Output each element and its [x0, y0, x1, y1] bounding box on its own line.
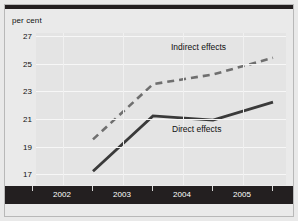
- x-tick-label: 2003: [102, 190, 142, 199]
- y-tick-label: 17: [2, 171, 32, 179]
- series-label-indirect: Indirect effects: [171, 42, 226, 52]
- gridline: [36, 147, 286, 148]
- gridline: [36, 174, 286, 175]
- x-tick-mark: [152, 186, 153, 191]
- vertical-gridline: [123, 33, 124, 185]
- series-label-direct: Direct effects: [172, 124, 221, 134]
- gridline: [36, 119, 286, 120]
- gridline: [36, 36, 286, 37]
- x-tick-mark: [272, 186, 273, 191]
- vertical-gridline: [183, 33, 184, 185]
- x-tick-label: 2002: [42, 190, 82, 199]
- x-tick-mark: [32, 186, 33, 191]
- x-tick-label: 2005: [222, 190, 262, 199]
- x-axis-band: 2002 2003 2004 2005: [5, 186, 293, 204]
- vertical-gridline: [243, 33, 244, 185]
- x-tick-mark: [92, 186, 93, 191]
- x-tick-label: 2004: [162, 190, 202, 199]
- plot-area: Indirect effects Direct effects: [36, 33, 286, 185]
- chart-figure: per cent 27 25 23 21 19 17 Indirect effe…: [0, 0, 298, 221]
- gridline: [36, 64, 286, 65]
- y-axis-tick-labels: 27 25 23 21 19 17: [0, 33, 32, 185]
- y-tick-label: 27: [2, 33, 32, 41]
- x-tick-mark: [212, 186, 213, 191]
- gridline: [36, 91, 286, 92]
- y-tick-label: 19: [2, 144, 32, 152]
- series-plot: [36, 33, 286, 185]
- top-rule-divider: [5, 5, 293, 9]
- vertical-gridline: [63, 33, 64, 185]
- y-axis-title: per cent: [12, 16, 42, 25]
- y-tick-label: 21: [2, 116, 32, 124]
- y-tick-label: 25: [2, 61, 32, 69]
- y-tick-label: 23: [2, 88, 32, 96]
